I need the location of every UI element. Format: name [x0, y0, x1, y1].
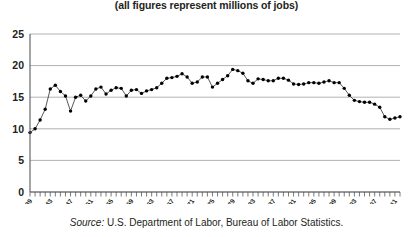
data-point [373, 102, 376, 105]
x-axis-tick-label: 1959 [121, 197, 135, 204]
data-point [282, 77, 285, 80]
data-point [241, 71, 244, 74]
x-axis-tick-label: 1951 [80, 197, 94, 204]
x-axis-labels-group: 1939194319471951195519591963196719711975… [19, 197, 398, 204]
data-point [69, 109, 72, 112]
data-point [38, 118, 41, 121]
data-point [140, 92, 143, 95]
data-point [49, 87, 52, 90]
data-point [226, 74, 229, 77]
x-axis-ticks-group [30, 192, 400, 197]
chart-figure: (all figures represent millions of jobs)… [0, 0, 413, 237]
data-point [99, 85, 102, 88]
data-point [79, 94, 82, 97]
y-axis-tick-label: 0 [18, 186, 24, 198]
data-series-group [28, 68, 401, 135]
data-point [165, 77, 168, 80]
x-axis-tick-label: 1971 [181, 197, 195, 204]
data-point [150, 88, 153, 91]
x-axis-tick-label: 2007 [364, 197, 378, 204]
x-axis-tick-label: 1999 [323, 197, 337, 204]
data-point [363, 101, 366, 104]
x-axis-tick-label: 1943 [39, 197, 53, 204]
x-axis-tick-label: 1939 [19, 197, 33, 204]
source-note: Source: U.S. Department of Labor, Bureau… [0, 216, 413, 230]
data-point [104, 92, 107, 95]
data-point [114, 86, 117, 89]
data-point [33, 127, 36, 130]
data-point [155, 86, 158, 89]
x-axis-tick-label: 1995 [303, 197, 317, 204]
data-point [109, 89, 112, 92]
data-point [120, 87, 123, 90]
data-point [322, 80, 325, 83]
data-point [277, 77, 280, 80]
x-axis-tick-label: 1979 [222, 197, 236, 204]
y-axis-tick-label: 25 [12, 28, 24, 40]
y-axis-labels-group: 0510152025 [12, 28, 24, 198]
data-point [267, 79, 270, 82]
data-point [44, 108, 47, 111]
y-axis-tick-label: 15 [12, 91, 24, 103]
y-axis-tick-label: 20 [12, 59, 24, 71]
data-point [180, 72, 183, 75]
data-point [353, 99, 356, 102]
data-point [292, 82, 295, 85]
data-point [337, 81, 340, 84]
data-point [312, 81, 315, 84]
data-point [89, 94, 92, 97]
chart-subtitle: (all figures represent millions of jobs) [0, 0, 413, 12]
data-point [206, 75, 209, 78]
data-point [84, 99, 87, 102]
gridlines-group [30, 34, 400, 192]
data-point [307, 81, 310, 84]
data-point [383, 115, 386, 118]
x-axis-tick-label: 1983 [242, 197, 256, 204]
data-point [74, 96, 77, 99]
y-axis-tick-label: 10 [12, 123, 24, 135]
data-point [64, 94, 67, 97]
data-point [190, 82, 193, 85]
line-chart-svg: 0510152025 19391943194719511955195919631… [0, 22, 413, 204]
source-text: U.S. Department of Labor, Bureau of Labo… [104, 217, 343, 228]
y-axis-tick-label: 5 [18, 154, 24, 166]
x-axis-tick-label: 2003 [344, 197, 358, 204]
data-point [54, 83, 57, 86]
data-point [256, 77, 259, 80]
data-point [236, 69, 239, 72]
data-point [59, 90, 62, 93]
data-point [185, 75, 188, 78]
data-point [343, 87, 346, 90]
data-point [175, 75, 178, 78]
data-point [317, 82, 320, 85]
data-point [297, 83, 300, 86]
data-point [125, 94, 128, 97]
data-point [302, 82, 305, 85]
data-point [398, 115, 401, 118]
x-axis-tick-label: 1967 [161, 197, 175, 204]
data-point [135, 88, 138, 91]
data-point [368, 101, 371, 104]
x-axis-tick-label: 1987 [262, 197, 276, 204]
data-point [196, 80, 199, 83]
data-point [94, 87, 97, 90]
data-point [211, 85, 214, 88]
plot-area: 0510152025 19391943194719511955195919631… [0, 22, 413, 204]
data-point [287, 78, 290, 81]
data-point [358, 100, 361, 103]
data-point [201, 75, 204, 78]
data-point [246, 79, 249, 82]
data-point [216, 82, 219, 85]
data-point [327, 79, 330, 82]
data-point [160, 82, 163, 85]
data-point [332, 81, 335, 84]
data-point [145, 89, 148, 92]
data-point [261, 78, 264, 81]
data-point [170, 76, 173, 79]
data-point [231, 68, 234, 71]
data-point [378, 106, 381, 109]
x-axis-tick-label: 2011 [384, 197, 398, 204]
x-axis-tick-label: 1975 [202, 197, 216, 204]
x-axis-tick-label: 1991 [283, 197, 297, 204]
x-axis-tick-label: 1955 [100, 197, 114, 204]
